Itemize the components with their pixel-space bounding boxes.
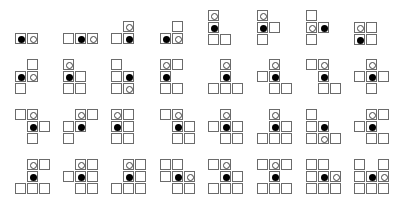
empty-circle-icon [309,25,316,32]
grid-cell [269,59,280,70]
grid-cell [27,121,38,132]
grid-cell [123,33,134,44]
empty-circle-icon [272,162,279,169]
grid-cell [269,171,280,182]
grid-cell [318,22,329,33]
filled-circle-icon [163,36,170,43]
grid-cell [172,109,183,120]
grid-cell [172,21,183,32]
grid-cell [269,22,280,33]
filled-circle-icon [114,124,121,131]
grid-cell [123,121,134,132]
grid-cell [378,109,389,120]
empty-circle-icon [30,112,37,119]
grid-cell [75,171,86,182]
grid-cell [306,34,317,45]
grid-cell [111,109,122,120]
grid-cell [172,59,183,70]
grid-cell [123,21,134,32]
empty-circle-icon [30,162,37,169]
filled-circle-icon [175,124,182,131]
grid-cell [172,83,183,94]
empty-circle-icon [272,62,279,69]
empty-circle-icon [357,25,364,32]
grid-cell [281,183,292,194]
grid-cell [172,159,183,170]
grid-cell [184,171,195,182]
grid-cell [306,121,317,132]
grid-cell [111,133,122,144]
grid-cell [15,183,26,194]
grid-cell [208,34,219,45]
grid-cell [232,133,243,144]
grid-cell [366,59,377,70]
filled-circle-icon [369,74,376,81]
grid-cell [354,183,365,194]
grid-cell [15,83,26,94]
filled-circle-icon [223,74,230,81]
grid-cell [366,121,377,132]
grid-cell [257,71,268,82]
empty-circle-icon [369,62,376,69]
empty-circle-icon [272,112,279,119]
grid-cell [378,71,389,82]
empty-circle-icon [66,62,73,69]
empty-circle-icon [223,112,230,119]
grid-cell [269,71,280,82]
grid-cell [123,83,134,94]
grid-cell [135,171,146,182]
grid-cell [63,33,74,44]
empty-circle-icon [78,162,85,169]
filled-circle-icon [369,174,376,181]
grid-cell [318,159,329,170]
grid-cell [306,22,317,33]
filled-circle-icon [163,74,170,81]
filled-circle-icon [30,174,37,181]
grid-cell [27,71,38,82]
grid-cell [39,183,50,194]
grid-cell [111,71,122,82]
grid-cell [354,121,365,132]
grid-cell [220,109,231,120]
grid-cell [87,159,98,170]
grid-cell [354,171,365,182]
grid-cell [27,133,38,144]
filled-circle-icon [18,74,25,81]
grid-cell [184,121,195,132]
grid-cell [330,133,341,144]
empty-circle-icon [126,162,133,169]
filled-circle-icon [357,37,364,44]
grid-cell [232,183,243,194]
grid-cell [172,133,183,144]
empty-circle-icon [223,62,230,69]
grid-cell [27,33,38,44]
grid-cell [378,171,389,182]
grid-cell [63,59,74,70]
grid-cell [75,159,86,170]
filled-circle-icon [260,25,267,32]
filled-circle-icon [211,25,218,32]
grid-cell [160,159,171,170]
grid-cell [220,59,231,70]
grid-cell [123,109,134,120]
grid-cell [257,133,268,144]
grid-cell [281,133,292,144]
empty-circle-icon [126,24,133,31]
filled-circle-icon [272,174,279,181]
grid-cell [220,34,231,45]
filled-circle-icon [369,124,376,131]
filled-circle-icon [18,36,25,43]
filled-circle-icon [126,74,133,81]
empty-circle-icon [369,112,376,119]
filled-circle-icon [321,124,328,131]
grid-cell [208,121,219,132]
empty-circle-icon [78,112,85,119]
grid-cell [15,109,26,120]
empty-circle-icon [187,174,194,181]
grid-cell [354,71,365,82]
grid-cell [220,183,231,194]
grid-cell [63,71,74,82]
grid-cell [269,83,280,94]
grid-cell [378,159,389,170]
grid-cell [172,183,183,194]
